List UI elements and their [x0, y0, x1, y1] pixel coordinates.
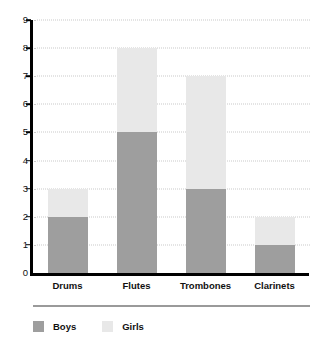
legend-divider — [33, 305, 310, 307]
bar-segment-girls — [255, 217, 295, 245]
bar-segment-boys — [48, 217, 88, 273]
stacked-bar-chart: 9 8 7 6 5 4 3 2 1 0 DrumsFlutesTrombones… — [0, 0, 325, 346]
y-tick-label: 1 — [14, 240, 28, 250]
y-tick-label: 4 — [14, 156, 28, 166]
y-tick-label: 2 — [14, 212, 28, 222]
x-tick-label: Trombones — [175, 279, 237, 295]
y-tick-label: 7 — [14, 71, 28, 81]
y-axis-labels: 9 8 7 6 5 4 3 2 1 0 — [14, 16, 28, 274]
legend-item: Girls — [102, 321, 144, 332]
y-tick-label: 6 — [14, 100, 28, 110]
legend-swatch-icon — [102, 321, 113, 332]
bar-group — [33, 20, 309, 273]
bar-segment-girls — [48, 189, 88, 217]
bar-segment-boys — [117, 132, 157, 273]
bar-segment-boys — [186, 189, 226, 273]
bar-column — [186, 20, 226, 273]
bar-segment-girls — [186, 76, 226, 188]
bar-column — [48, 20, 88, 273]
bar-segment-girls — [117, 48, 157, 132]
legend-item: Boys — [33, 321, 76, 332]
y-tick-label: 9 — [14, 15, 28, 25]
x-axis-labels: DrumsFlutesTrombonesClarinets — [33, 279, 309, 295]
legend-label: Girls — [122, 321, 144, 332]
x-tick-label: Drums — [37, 279, 99, 295]
y-tick-label: 5 — [14, 128, 28, 138]
legend-label: Boys — [53, 321, 76, 332]
x-axis-line — [30, 273, 309, 276]
legend-swatch-icon — [33, 321, 44, 332]
bar-column — [255, 20, 295, 273]
x-tick-label: Flutes — [106, 279, 168, 295]
y-tick-label: 3 — [14, 184, 28, 194]
plot-area: 9 8 7 6 5 4 3 2 1 0 DrumsFlutesTrombones… — [0, 0, 325, 300]
y-tick-label: 8 — [14, 43, 28, 53]
x-tick-label: Clarinets — [244, 279, 306, 295]
y-tick-label: 0 — [14, 268, 28, 278]
bar-column — [117, 20, 157, 273]
bar-segment-boys — [255, 245, 295, 273]
chart-legend: BoysGirls — [33, 318, 170, 334]
